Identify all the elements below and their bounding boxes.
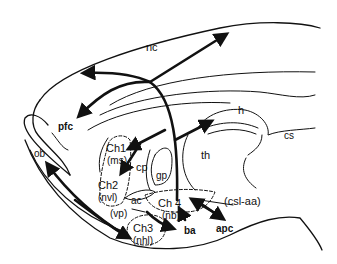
label-csl-aa: (csl-aa) [224,196,261,207]
label-gp: gp [156,171,167,181]
label-nhl: (nhl) [133,236,153,246]
label-cs: cs [284,131,294,141]
label-nvl: (nvl) [98,193,117,203]
label-ac: ac [131,196,142,206]
ventral-outline [25,140,322,250]
label-apc: apc [216,224,233,234]
arrow-nb-apc [200,203,222,218]
label-vp: (vp) [110,209,127,219]
label-pfc: pfc [58,122,73,132]
arrow-to-ch1 [130,130,165,148]
frontal-outline [33,100,70,175]
arrow-ba-to-nb [180,210,185,220]
label-nc: nc [146,42,158,53]
label-th: th [201,150,210,161]
label-ms: (ms) [107,156,127,166]
label-cp: cp [136,162,148,173]
label-ob: ob [34,149,45,159]
label-h: h [238,105,244,116]
label-ch2: Ch2 [98,180,118,191]
label-ch3: Ch3 [133,223,153,234]
label-ch4: Ch 4 [158,198,181,209]
label-ch1: Ch1 [106,143,126,154]
cortex-outline [40,23,320,100]
label-ba: ba [184,226,196,236]
label-nb: (nb) [162,211,180,221]
arrow-to-hippocampus [175,122,210,140]
